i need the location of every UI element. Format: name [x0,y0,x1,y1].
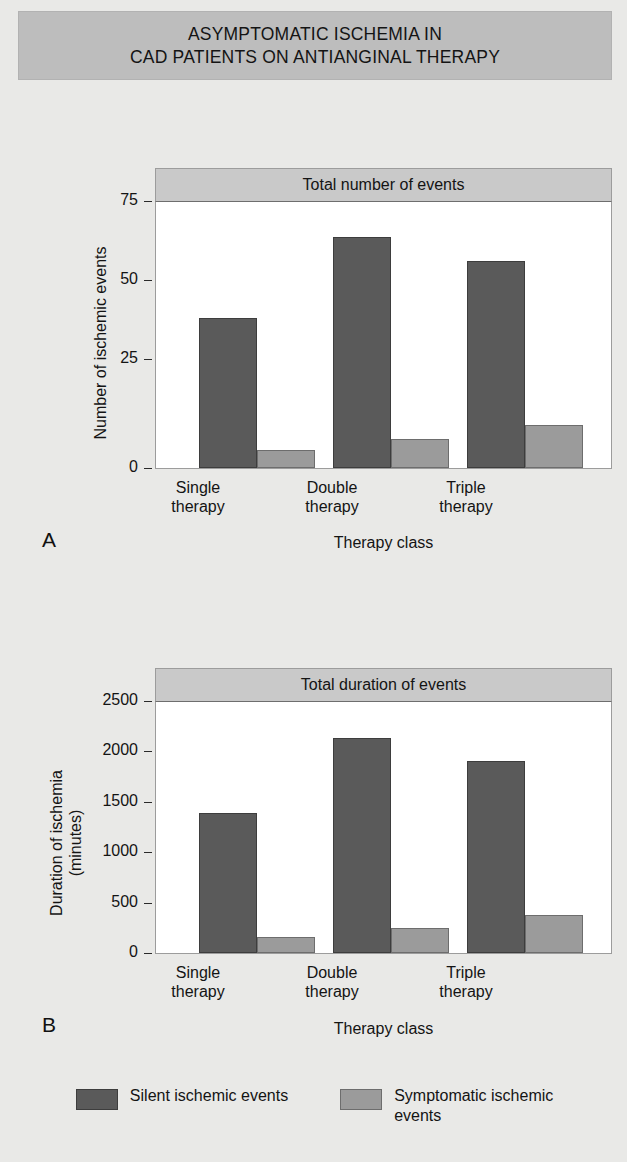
legend-entry-symptomatic: Symptomatic ischemic events [340,1086,554,1125]
figure-body: Total number of events Number of ischemi… [18,88,612,1150]
panel-a-header: Total number of events [155,168,612,201]
panel-a-header-label: Total number of events [303,176,465,194]
panel-b-ytickmark-1500 [144,802,152,803]
panel-b-y-axis-title-line1: Duration of ischemia [48,708,67,978]
figure-title-line-2: CAD PATIENTS ON ANTIANGINAL THERAPY [130,46,500,68]
panel-b-bar-silent-single [199,813,257,953]
panel-b-ytickmark-2000 [144,751,152,752]
panel-a-plot-area [155,201,612,469]
panel-b-ytick-1500: 1500 [76,792,138,810]
panel-b-x-axis-title: Therapy class [155,1020,612,1038]
legend-swatch-symptomatic-icon [340,1089,382,1110]
panel-a-ytick-0: 0 [96,458,138,476]
panel-b: Total duration of events Duration of isc… [18,588,612,1086]
panel-b-ytick-2500: 2500 [76,691,138,709]
panel-b-ytickmark-1000 [144,852,152,853]
panel-b-ytickmark-500 [144,903,152,904]
panel-a-ytickmark-0 [144,468,152,469]
panel-b-plot-area [155,701,612,954]
panel-b-ytick-2000: 2000 [76,741,138,759]
legend-entry-silent: Silent ischemic events [76,1086,288,1110]
panel-a-bar-symptomatic-triple [525,425,583,468]
panel-b-ytick-0: 0 [76,943,138,961]
legend-label-symptomatic: Symptomatic ischemic events [394,1086,554,1125]
figure-legend: Silent ischemic events Symptomatic ische… [18,1086,612,1148]
panel-a-ytickmark-25 [144,359,152,360]
panel-a-letter: A [42,528,56,552]
panel-b-letter: B [42,1013,56,1037]
panel-a-bar-silent-double [333,237,391,468]
panel-b-ytick-500: 500 [76,893,138,911]
panel-b-ytick-1000: 1000 [76,842,138,860]
panel-b-bar-silent-double [333,738,391,953]
panel-a-bar-silent-triple [467,261,525,468]
panel-a-x-axis-title: Therapy class [155,534,612,552]
legend-label-silent: Silent ischemic events [130,1086,288,1106]
panel-a-bar-silent-single [199,318,257,468]
panel-a-ytick-75: 75 [96,191,138,209]
panel-a-ytickmark-75 [144,201,152,202]
panel-a-xtick-triple: Triple therapy [386,478,546,516]
legend-swatch-silent-icon [76,1089,118,1110]
panel-a-bar-symptomatic-single [257,450,315,468]
panel-b-xtick-triple-line1: Triple [386,963,546,982]
panel-a-bar-symptomatic-double [391,439,449,468]
panel-b-bar-symptomatic-triple [525,915,583,953]
panel-b-ytickmark-2500 [144,701,152,702]
panel-b-bar-symptomatic-single [257,937,315,953]
panel-a-xtick-triple-line2: therapy [386,497,546,516]
panel-b-xtick-triple-line2: therapy [386,982,546,1001]
panel-b-xtick-triple: Triple therapy [386,963,546,1001]
panel-b-header-label: Total duration of events [301,676,466,694]
figure-title-line-1: ASYMPTOMATIC ISCHEMIA IN [188,23,442,45]
panel-a-ytick-25: 25 [96,349,138,367]
figure-title-banner: ASYMPTOMATIC ISCHEMIA IN CAD PATIENTS ON… [18,11,612,80]
panel-b-header: Total duration of events [155,668,612,701]
panel-a-y-axis-title: Number of ischemic events [92,208,110,478]
panel-a-ytickmark-50 [144,280,152,281]
panel-b-ytickmark-0 [144,953,152,954]
panel-a-ytick-50: 50 [96,270,138,288]
panel-b-bar-symptomatic-double [391,928,449,953]
panel-a-xtick-triple-line1: Triple [386,478,546,497]
panel-b-bar-silent-triple [467,761,525,953]
panel-a: Total number of events Number of ischemi… [18,88,612,558]
